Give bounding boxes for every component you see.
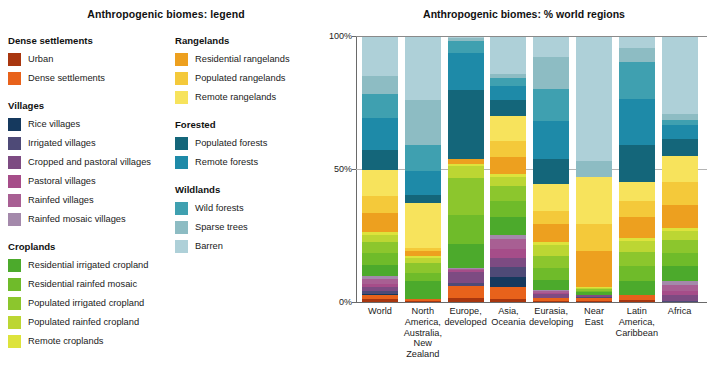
bar-segment[interactable]	[362, 150, 398, 170]
table-row[interactable]	[619, 37, 655, 302]
bar-segment[interactable]	[362, 242, 398, 253]
legend-item[interactable]: Populated rainfed cropland	[8, 313, 176, 332]
bar-segment[interactable]	[490, 217, 526, 236]
bar-segment[interactable]	[662, 139, 698, 156]
table-row[interactable]	[448, 37, 484, 302]
bar-segment[interactable]	[448, 90, 484, 159]
legend-item[interactable]: Urban	[8, 50, 176, 69]
bar-segment[interactable]	[662, 253, 698, 266]
bar-segment[interactable]	[490, 100, 526, 116]
legend-item[interactable]: Remote forests	[175, 153, 335, 172]
bar-segment[interactable]	[362, 265, 398, 276]
bar-segment[interactable]	[448, 286, 484, 298]
bar-segment[interactable]	[662, 266, 698, 281]
bar-segment[interactable]	[576, 301, 612, 302]
bar-segment[interactable]	[490, 177, 526, 186]
bar-segment[interactable]	[576, 224, 612, 251]
table-row[interactable]	[490, 37, 526, 302]
bar-segment[interactable]	[490, 186, 526, 201]
bar-segment[interactable]	[490, 141, 526, 157]
bar-segment[interactable]	[448, 244, 484, 268]
bar-segment[interactable]	[362, 235, 398, 243]
bar-segment[interactable]	[619, 37, 655, 48]
bar-segment[interactable]	[533, 37, 569, 57]
bar-segment[interactable]	[619, 217, 655, 238]
bar-segment[interactable]	[405, 273, 441, 281]
bar-segment[interactable]	[405, 100, 441, 145]
legend-item[interactable]: Residential rangelands	[175, 50, 335, 69]
legend-item[interactable]: Residential rainfed mosaic	[8, 275, 176, 294]
bar-segment[interactable]	[448, 178, 484, 215]
bar-segment[interactable]	[448, 166, 484, 178]
bar-segment[interactable]	[576, 37, 612, 161]
bar-segment[interactable]	[448, 215, 484, 244]
legend-item[interactable]: Populated rangelands	[175, 69, 335, 88]
bar-segment[interactable]	[619, 201, 655, 217]
bar-segment[interactable]	[533, 245, 569, 256]
bar-segment[interactable]	[448, 272, 484, 284]
bar-segment[interactable]	[619, 252, 655, 267]
bar-segment[interactable]	[619, 48, 655, 61]
table-row[interactable]	[662, 37, 698, 302]
legend-item[interactable]: Sparse trees	[175, 218, 335, 237]
legend-item[interactable]: Pastoral villages	[8, 172, 176, 191]
bar-segment[interactable]	[533, 280, 569, 291]
table-row[interactable]	[576, 37, 612, 302]
bar-segment[interactable]	[490, 239, 526, 248]
bar-segment[interactable]	[662, 182, 698, 204]
bar-segment[interactable]	[533, 159, 569, 184]
bar-segment[interactable]	[362, 170, 398, 197]
bar-segment[interactable]	[619, 62, 655, 99]
bar-segment[interactable]	[448, 298, 484, 302]
legend-item[interactable]: Remote rangelands	[175, 88, 335, 107]
bar-segment[interactable]	[362, 253, 398, 265]
bar-segment[interactable]	[533, 256, 569, 268]
bar-segment[interactable]	[405, 195, 441, 203]
bar-segment[interactable]	[490, 78, 526, 86]
bar-segment[interactable]	[490, 267, 526, 276]
bar-segment[interactable]	[619, 182, 655, 201]
bar-segment[interactable]	[448, 53, 484, 90]
legend-item[interactable]: Rainfed villages	[8, 191, 176, 210]
legend-item[interactable]: Populated forests	[175, 134, 335, 153]
bar-segment[interactable]	[448, 41, 484, 53]
bar-segment[interactable]	[662, 114, 698, 121]
table-row[interactable]	[533, 37, 569, 302]
legend-item[interactable]: Irrigated villages	[8, 134, 176, 153]
legend-item[interactable]: Dense settlements	[8, 69, 176, 88]
bar-segment[interactable]	[490, 258, 526, 267]
bar-segment[interactable]	[405, 171, 441, 195]
bar-segment[interactable]	[405, 281, 441, 298]
bar-segment[interactable]	[405, 203, 441, 248]
bar-segment[interactable]	[362, 299, 398, 302]
bar-segment[interactable]	[362, 213, 398, 232]
bar-segment[interactable]	[362, 196, 398, 213]
bar-segment[interactable]	[662, 205, 698, 229]
bar-segment[interactable]	[619, 99, 655, 145]
bar-segment[interactable]	[662, 231, 698, 240]
legend-item[interactable]: Wild forests	[175, 199, 335, 218]
bar-segment[interactable]	[662, 156, 698, 182]
bar-segment[interactable]	[533, 301, 569, 302]
legend-item[interactable]: Residential irrigated cropland	[8, 256, 176, 275]
bar-segment[interactable]	[405, 145, 441, 172]
bar-segment[interactable]	[362, 118, 398, 150]
bar-segment[interactable]	[490, 37, 526, 74]
bar-segment[interactable]	[405, 37, 441, 100]
bar-segment[interactable]	[576, 177, 612, 225]
legend-item[interactable]: Rice villages	[8, 115, 176, 134]
bar-segment[interactable]	[405, 263, 441, 274]
bar-segment[interactable]	[533, 184, 569, 211]
bar-segment[interactable]	[490, 116, 526, 141]
bar-segment[interactable]	[533, 211, 569, 224]
bar-segment[interactable]	[362, 76, 398, 95]
legend-item[interactable]: Cropped and pastoral villages	[8, 153, 176, 172]
legend-item[interactable]: Populated irrigated cropland	[8, 294, 176, 313]
bar-segment[interactable]	[619, 300, 655, 302]
bar-segment[interactable]	[405, 301, 441, 302]
bar-segment[interactable]	[619, 266, 655, 281]
legend-item[interactable]: Remote croplands	[8, 332, 176, 351]
bar-segment[interactable]	[576, 251, 612, 287]
bar-segment[interactable]	[576, 161, 612, 177]
bar-segment[interactable]	[490, 277, 526, 288]
